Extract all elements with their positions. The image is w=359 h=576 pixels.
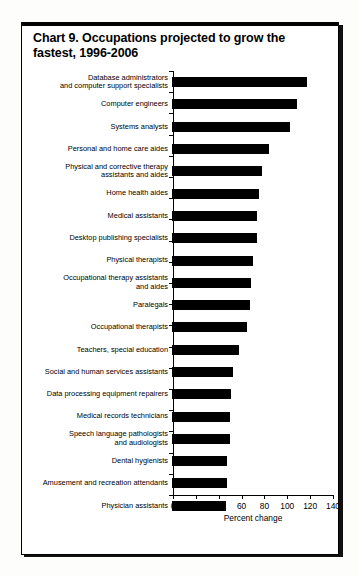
category-tick	[169, 410, 173, 411]
bar-cell	[172, 272, 340, 294]
x-axis-tick	[287, 495, 288, 499]
bar-category-label: Systems analysts	[22, 123, 172, 131]
category-tick	[169, 113, 173, 114]
bar-row: Physical and corrective therapy assistan…	[22, 160, 340, 182]
bar-cell	[172, 249, 340, 271]
category-axis-line	[173, 71, 174, 495]
category-tick	[169, 474, 173, 475]
bar-cell	[172, 71, 340, 93]
page-background: Chart 9. Occupations projected to grow t…	[0, 0, 359, 576]
bar-row: Social and human services assistants	[22, 361, 340, 383]
bar-category-label: Medical assistants	[22, 212, 172, 220]
bar	[172, 412, 230, 422]
bar-cell	[172, 450, 340, 472]
category-tick	[169, 431, 173, 432]
bar-cell	[172, 227, 340, 249]
chart-title: Chart 9. Occupations projected to grow t…	[33, 31, 329, 61]
bar-category-label: Physician assistants	[22, 502, 172, 510]
bar	[172, 144, 269, 154]
category-tick	[169, 135, 173, 136]
bar-category-label: Dental hygienists	[22, 457, 172, 465]
bar-cell	[172, 205, 340, 227]
bar-row: Physical therapists	[22, 249, 340, 271]
category-tick	[169, 325, 173, 326]
bar-category-label: Amusement and recreation attendants	[22, 479, 172, 487]
bar-rows: Database administrators and computer sup…	[22, 71, 340, 517]
x-axis-tick	[242, 495, 243, 499]
frame-top-rule	[22, 23, 338, 26]
x-axis-tick	[196, 495, 197, 499]
bar-category-label: Personal and home care aides	[22, 145, 172, 153]
bar	[172, 77, 307, 87]
category-tick	[169, 453, 173, 454]
plot-area: Database administrators and computer sup…	[22, 71, 340, 541]
bar	[172, 256, 253, 266]
bar	[172, 300, 250, 310]
bar-row: Home health aides	[22, 182, 340, 204]
bar-category-label: Teachers, special education	[22, 346, 172, 354]
category-tick	[169, 156, 173, 157]
bar-row: Data processing equipment repairers	[22, 383, 340, 405]
category-tick	[169, 219, 173, 220]
bar-cell	[172, 294, 340, 316]
bar-row: Speech language pathologists and audiolo…	[22, 428, 340, 450]
category-tick	[169, 198, 173, 199]
bar	[172, 434, 230, 444]
x-axis-tick	[333, 495, 334, 499]
bar-row: Computer engineers	[22, 93, 340, 115]
x-axis-tick	[264, 495, 265, 499]
bar-category-label: Speech language pathologists and audiolo…	[22, 430, 172, 447]
bar-cell	[172, 428, 340, 450]
bar-category-label: Home health aides	[22, 189, 172, 197]
bar-cell	[172, 472, 340, 494]
category-tick	[169, 304, 173, 305]
category-tick	[169, 92, 173, 93]
category-tick	[169, 241, 173, 242]
bar-row: Dental hygienists	[22, 450, 340, 472]
bar-category-label: Computer engineers	[22, 100, 172, 108]
category-tick	[169, 347, 173, 348]
x-axis-tick	[219, 495, 220, 499]
bar	[172, 389, 231, 399]
category-tick	[169, 368, 173, 369]
bar-category-label: Occupational therapists	[22, 323, 172, 331]
bar-row: Desktop publishing specialists	[22, 227, 340, 249]
bar-row: Personal and home care aides	[22, 138, 340, 160]
bar-row: Medical assistants	[22, 205, 340, 227]
bar-category-label: Desktop publishing specialists	[22, 234, 172, 242]
bar	[172, 456, 227, 466]
bar-category-label: Physical therapists	[22, 256, 172, 264]
bar	[172, 189, 259, 199]
category-tick	[169, 495, 173, 496]
category-tick	[169, 177, 173, 178]
category-tick	[169, 389, 173, 390]
bar-cell	[172, 339, 340, 361]
bar-cell	[172, 182, 340, 204]
bar-category-label: Medical records technicians	[22, 412, 172, 420]
bar	[172, 99, 297, 109]
bar	[172, 367, 233, 377]
bar-cell	[172, 138, 340, 160]
category-tick	[169, 283, 173, 284]
bar-row: Teachers, special education	[22, 339, 340, 361]
bar-category-label: Social and human services assistants	[22, 368, 172, 376]
bar-row: Database administrators and computer sup…	[22, 71, 340, 93]
bar	[172, 478, 227, 488]
bar-cell	[172, 93, 340, 115]
bar-row: Amusement and recreation attendants	[22, 472, 340, 494]
bar-row: Paralegals	[22, 294, 340, 316]
x-axis-tick-label: 140	[320, 501, 346, 511]
bar-category-label: Database administrators and computer sup…	[22, 74, 172, 91]
bar-category-label: Paralegals	[22, 301, 172, 309]
bar-cell	[172, 116, 340, 138]
bar-cell	[172, 160, 340, 182]
value-axis-line	[173, 495, 333, 496]
x-axis-tick	[310, 495, 311, 499]
bar-row: Systems analysts	[22, 116, 340, 138]
bar-category-label: Data processing equipment repairers	[22, 390, 172, 398]
bar	[172, 211, 257, 221]
bar	[172, 345, 239, 355]
bar-row: Occupational therapy assistants and aide…	[22, 272, 340, 294]
bar-row: Occupational therapists	[22, 316, 340, 338]
bar	[172, 233, 257, 243]
